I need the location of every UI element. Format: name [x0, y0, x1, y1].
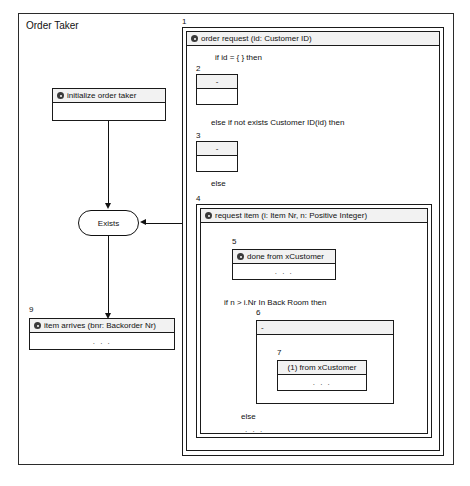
branch-2-header: -: [197, 75, 237, 89]
order-request-else-keyword: else: [211, 178, 226, 189]
page-title: Order Taker: [26, 20, 79, 31]
item-arrives-body: . . .: [30, 333, 174, 349]
at-marker-icon: [191, 35, 198, 42]
branch-3-header: -: [197, 142, 237, 156]
request-item-label: request item (i: Item Nr, n: Positive In…: [215, 211, 367, 220]
branch-2-body: [197, 89, 237, 104]
nested-7-body: . . .: [278, 375, 366, 390]
nested-7-header: (1) from xCustomer: [278, 361, 366, 375]
state-exists[interactable]: Exists: [78, 210, 139, 236]
initialize-order-taker-label: initialize order taker: [67, 91, 136, 100]
connector-exists-to-item-arrives: [108, 236, 109, 317]
done-from-xcustomer-number: 5: [232, 237, 236, 247]
request-item-number: 4: [196, 194, 200, 204]
item-arrives-number: 9: [29, 305, 33, 315]
order-request-elseif-condition: else if not exists Customer ID(id) then: [211, 117, 344, 128]
at-marker-icon: [57, 92, 64, 99]
connector-init-to-exists: [108, 121, 109, 206]
state-exists-label: Exists: [98, 219, 119, 228]
done-from-xcustomer-body: . . .: [233, 264, 335, 279]
nested-7-box[interactable]: (1) from xCustomer . . .: [277, 360, 367, 391]
nested-6-number: 6: [256, 308, 260, 318]
initialize-order-taker-header: initialize order taker: [53, 89, 165, 103]
request-item-header: request item (i: Item Nr, n: Positive In…: [201, 209, 427, 223]
branch-3-box[interactable]: -: [196, 141, 238, 172]
request-item-else-keyword: else: [241, 411, 256, 422]
done-from-xcustomer-header: done from xCustomer: [233, 250, 335, 264]
item-arrives-header: item arrives (bnr: Backorder Nr): [30, 319, 174, 333]
at-marker-icon: [237, 253, 244, 260]
branch-2-number: 2: [196, 64, 200, 74]
diagram-canvas: Order Taker initialize order taker Exist…: [0, 0, 470, 486]
order-request-header: order request (id: Customer ID): [187, 32, 439, 46]
done-from-xcustomer-box[interactable]: done from xCustomer . . .: [232, 249, 336, 280]
branch-3-number: 3: [196, 131, 200, 141]
initialize-order-taker-body: [53, 103, 165, 120]
order-request-label: order request (id: Customer ID): [201, 34, 312, 43]
initialize-order-taker-box[interactable]: initialize order taker: [52, 88, 166, 121]
branch-3-body: [197, 156, 237, 171]
order-request-if-condition: if id = { } then: [215, 52, 262, 63]
item-arrives-box[interactable]: item arrives (bnr: Backorder Nr) . . .: [29, 318, 175, 350]
nested-6-header: -: [257, 321, 393, 335]
arrowhead-to-exists: [140, 219, 146, 225]
order-request-number: 1: [182, 17, 186, 27]
request-item-if-condition: if n > i.Nr In Back Room then: [224, 297, 327, 308]
item-arrives-label: item arrives (bnr: Backorder Nr): [44, 321, 156, 330]
arrowhead-init-to-exists: [105, 203, 111, 209]
request-item-else-body: . . .: [245, 424, 264, 435]
branch-2-box[interactable]: -: [196, 74, 238, 105]
at-marker-icon: [205, 212, 212, 219]
done-from-xcustomer-label: done from xCustomer: [247, 252, 324, 261]
nested-7-number: 7: [277, 348, 281, 358]
at-marker-icon: [34, 322, 41, 329]
